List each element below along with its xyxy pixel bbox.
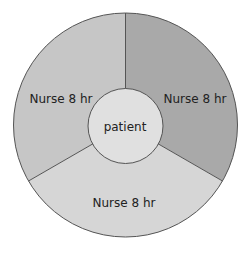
segment-label-upper-left: Nurse 8 hr <box>30 92 93 106</box>
segment-label-right: Nurse 8 hr <box>164 92 227 106</box>
patient-label: patient <box>104 120 147 134</box>
segment-label-bottom: Nurse 8 hr <box>93 196 156 210</box>
